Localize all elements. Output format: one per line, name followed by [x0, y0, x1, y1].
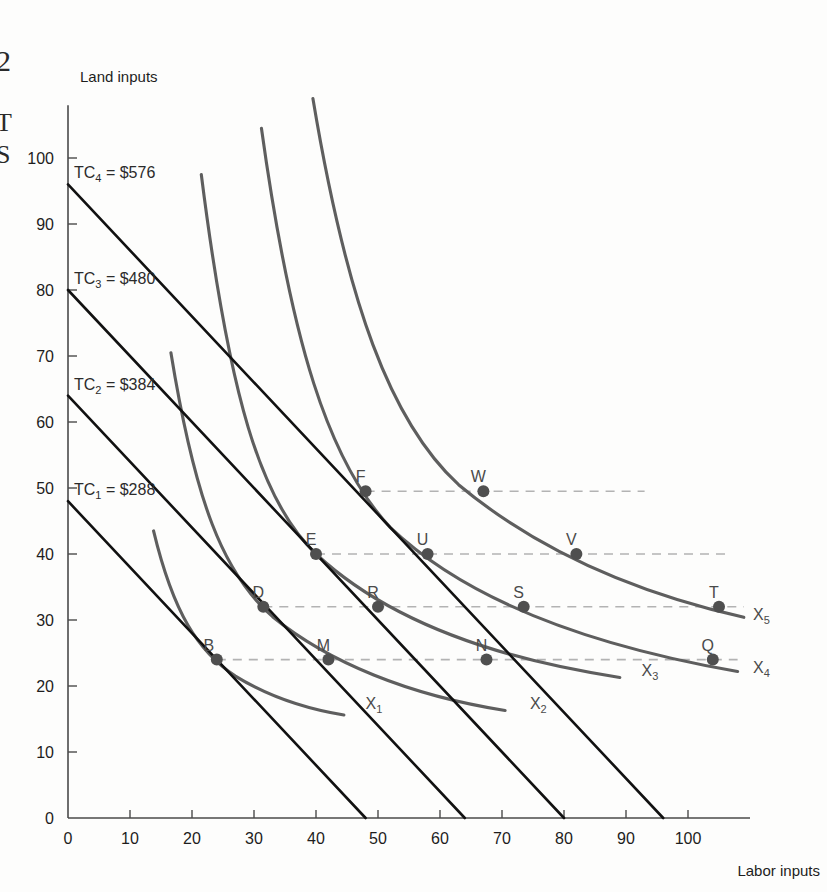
data-point-u: [422, 548, 434, 560]
x-tick-label: 60: [431, 830, 449, 847]
data-point-b: [211, 654, 223, 666]
data-point-w: [477, 485, 489, 497]
data-point-v: [570, 548, 582, 560]
isoquant-curve-x5: [313, 99, 744, 618]
data-point-label-d: D: [253, 584, 265, 601]
isoquant-label-x4: X4: [753, 659, 770, 679]
data-point-d: [257, 601, 269, 613]
figure-root: 2 T S 0102030405060708090100010203040506…: [0, 0, 827, 892]
x-tick-label: 20: [183, 830, 201, 847]
y-tick-label: 70: [36, 348, 54, 365]
isocost-label-tc2: TC2 = $384: [74, 376, 155, 396]
y-tick-label: 100: [27, 150, 54, 167]
data-point-label-e: E: [306, 531, 317, 548]
x-tick-label: 80: [555, 830, 573, 847]
isoquant-label-x1: X1: [366, 695, 383, 715]
data-point-t: [713, 601, 725, 613]
isocost-lines-layer: [68, 184, 663, 818]
data-point-n: [481, 654, 493, 666]
y-tick-label: 0: [45, 810, 54, 827]
data-point-m: [322, 654, 334, 666]
data-point-r: [372, 601, 384, 613]
x-tick-label: 0: [64, 830, 73, 847]
isocost-label-tc4: TC4 = $576: [74, 164, 155, 184]
data-point-e: [310, 548, 322, 560]
y-tick-label: 10: [36, 744, 54, 761]
data-point-label-n: N: [476, 637, 488, 654]
y-tick-label: 50: [36, 480, 54, 497]
x-tick-label: 40: [307, 830, 325, 847]
isoquant-curves-layer: [154, 99, 744, 715]
y-tick-label: 30: [36, 612, 54, 629]
y-tick-label: 90: [36, 216, 54, 233]
x-tick-label: 50: [369, 830, 387, 847]
isoquant-label-x5: X5: [753, 606, 770, 626]
isoquant-isocost-chart: 0102030405060708090100010203040506070809…: [0, 0, 827, 892]
data-point-label-b: B: [203, 637, 214, 654]
data-point-label-f: F: [356, 468, 366, 485]
isocost-label-tc3: TC3 = $480: [74, 270, 155, 290]
x-tick-label: 100: [675, 830, 702, 847]
y-axis-title: Land inputs: [80, 68, 158, 85]
data-point-label-t: T: [709, 584, 719, 601]
data-point-s: [518, 601, 530, 613]
y-tick-label: 60: [36, 414, 54, 431]
data-point-f: [360, 485, 372, 497]
isocost-label-tc1: TC1 = $288: [74, 481, 155, 501]
x-axis-title: Labor inputs: [737, 862, 820, 879]
data-point-label-r: R: [367, 584, 379, 601]
y-tick-label: 40: [36, 546, 54, 563]
data-point-label-u: U: [417, 531, 429, 548]
isoquant-label-x2: X2: [530, 695, 547, 715]
data-point-label-v: V: [566, 531, 577, 548]
data-points-layer: [211, 485, 725, 665]
x-tick-label: 90: [617, 830, 635, 847]
isocost-line-tc4: [68, 184, 663, 818]
data-point-label-s: S: [513, 584, 524, 601]
y-tick-label: 20: [36, 678, 54, 695]
x-tick-label: 70: [493, 830, 511, 847]
x-tick-label: 10: [121, 830, 139, 847]
data-point-label-q: Q: [702, 637, 714, 654]
x-tick-label: 30: [245, 830, 263, 847]
y-tick-label: 80: [36, 282, 54, 299]
data-point-label-w: W: [471, 468, 487, 485]
data-point-label-m: M: [317, 637, 330, 654]
data-point-q: [707, 654, 719, 666]
isoquant-label-x3: X3: [642, 662, 659, 682]
